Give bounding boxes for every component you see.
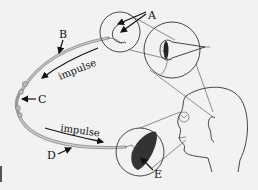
nerve-pathway-diagram: impulse impulse A B C D E bbox=[0, 0, 258, 190]
label-c: C bbox=[38, 93, 46, 106]
edge-mark bbox=[0, 166, 2, 182]
eye-detail-circle bbox=[144, 22, 210, 78]
label-d: D bbox=[47, 149, 56, 162]
label-b-arrow bbox=[59, 40, 63, 53]
impulse-label-upper: impulse bbox=[57, 57, 98, 82]
connector-line bbox=[152, 140, 186, 168]
head-profile bbox=[178, 87, 248, 172]
receptor-circle-a bbox=[100, 12, 140, 52]
label-a: A bbox=[147, 9, 157, 22]
sightline bbox=[150, 70, 213, 117]
label-b: B bbox=[59, 28, 67, 41]
connector-line bbox=[140, 112, 180, 128]
label-d-arrow bbox=[58, 148, 71, 154]
impulse-label-lower: impulse bbox=[60, 122, 101, 138]
label-e: E bbox=[154, 168, 162, 181]
label-a-arrow bbox=[118, 12, 146, 24]
